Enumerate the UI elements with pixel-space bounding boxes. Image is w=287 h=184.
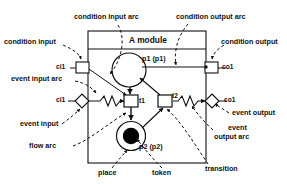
port-label-event-input: ci1 [56,96,65,104]
port-label-event-output: co1 [224,96,235,104]
port-label-condition-input: ci1 [56,63,65,71]
annotation-token: token [152,169,171,177]
transition-t1[interactable] [124,95,138,107]
annotation-condition-output: condition output [221,38,278,46]
annotation-event-output-arc-line2: output arc [214,133,249,141]
place-label-p1: p1 (p1) [142,55,166,63]
transition-label-t1: t1 [139,97,145,105]
transition-label-t2: t2 [172,92,178,100]
transition-t2[interactable] [158,95,172,107]
annotation-event-output-arc-line1: event [228,124,247,132]
diagram-graphics [0,0,287,184]
event-output-port[interactable] [205,94,219,108]
diagram-canvas: A module condition input arc condition o… [0,0,287,184]
port-label-condition-output: co1 [222,63,233,71]
annotation-place: place [98,169,116,177]
annotation-event-output: event output [232,109,275,117]
annotation-condition-input-arc: condition input arc [74,13,139,21]
annotation-flow-arc: flow arc [29,142,56,150]
annotation-event-input: event input [20,120,58,128]
place-p1[interactable] [112,53,146,87]
leader-event-output [215,104,229,113]
module-title: A module [108,36,188,44]
annotation-transition: transition [205,165,238,173]
leader-condition-input [63,45,81,59]
arc-endpoint-dot [204,65,207,68]
annotation-condition-input: condition input [4,38,56,46]
condition-input-port[interactable] [76,62,89,73]
token-dot [123,128,139,144]
place-label-p2: p2 (p2) [139,143,163,151]
leader-event-input [62,109,80,124]
event-input-port[interactable] [75,94,89,108]
annotation-condition-output-arc: condition output arc [176,13,245,21]
annotation-event-input-arc: event input arc [11,75,62,83]
leader-condition-output [212,45,224,59]
